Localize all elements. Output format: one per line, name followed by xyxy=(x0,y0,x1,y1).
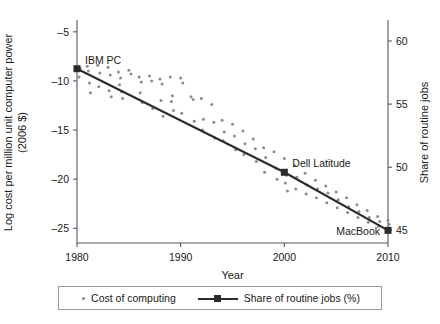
scatter-point xyxy=(326,191,329,194)
scatter-point xyxy=(162,115,165,118)
scatter-point xyxy=(140,80,143,83)
scatter-point xyxy=(254,147,257,150)
scatter-point xyxy=(98,72,101,75)
legend-item-cost-of-computing: Cost of computing xyxy=(80,292,176,304)
legend-label-cost-of-computing: Cost of computing xyxy=(91,292,176,304)
x-tick-label: 1990 xyxy=(169,251,193,263)
scatter-point xyxy=(221,119,224,122)
x-tick-label: 1980 xyxy=(65,251,89,263)
scatter-point xyxy=(138,76,141,79)
scatter-point xyxy=(241,130,244,133)
legend-label-share-of-routine-jobs: Share of routine jobs (%) xyxy=(244,292,360,304)
scatter-point xyxy=(223,131,226,134)
scatter-point xyxy=(324,185,327,188)
legend-dot-icon xyxy=(82,297,85,300)
annotation-label: MacBook xyxy=(336,225,381,237)
scatter-point xyxy=(172,109,175,112)
scatter-point xyxy=(366,209,369,212)
scatter-point xyxy=(346,211,349,214)
scatter-point xyxy=(388,223,391,226)
scatter-point xyxy=(272,150,275,153)
scatter-point xyxy=(109,74,112,77)
scatter-point xyxy=(356,216,359,219)
scatter-point xyxy=(117,71,120,74)
anchor-marker xyxy=(385,227,392,234)
share-of-routine-jobs-line xyxy=(77,69,388,231)
scatter-point xyxy=(171,94,174,97)
scatter-point xyxy=(200,97,203,100)
scatter-point xyxy=(262,146,265,149)
scatter-point xyxy=(212,121,215,124)
y-tick-label-left: –15 xyxy=(51,124,69,136)
scatter-point xyxy=(97,85,100,88)
scatter-point xyxy=(263,171,266,174)
scatter-point xyxy=(181,81,184,84)
anchor-marker xyxy=(281,169,288,176)
y-tick-label-left: –25 xyxy=(51,222,69,234)
scatter-point xyxy=(325,201,328,204)
y-axis-left-title-line1: Log cost per million unit computer power xyxy=(2,33,14,231)
scatter-point xyxy=(304,172,307,175)
scatter-point xyxy=(89,91,92,94)
y-tick-label-right: 45 xyxy=(396,224,408,236)
y-axis-left-title: Log cost per million unit computer power… xyxy=(2,33,28,231)
y-axis-right-title: Share of routine jobs xyxy=(418,81,430,183)
scatter-point xyxy=(284,182,287,185)
annotation-label: IBM PC xyxy=(85,54,122,66)
scatter-point xyxy=(110,95,113,98)
scatter-point xyxy=(148,75,151,78)
y-axis-left-title-line2: (2006 $) xyxy=(16,112,28,153)
scatter-point xyxy=(367,221,370,224)
scatter-point xyxy=(336,206,339,209)
scatter-point xyxy=(150,79,153,82)
legend-line-square-icon xyxy=(198,293,238,303)
scatter-point xyxy=(127,69,130,72)
scatter-point xyxy=(243,142,246,145)
scatter-point xyxy=(283,157,286,160)
scatter-point xyxy=(355,203,358,206)
scatter-point xyxy=(87,70,90,73)
scatter-point xyxy=(315,196,318,199)
y-tick-label-right: 60 xyxy=(396,35,408,47)
scatter-point xyxy=(119,76,122,79)
scatter-point xyxy=(139,91,142,94)
scatter-point xyxy=(170,100,173,103)
scatter-point xyxy=(231,123,234,126)
y-tick-label-right: 50 xyxy=(396,161,408,173)
scatter-point xyxy=(180,112,183,115)
legend-item-share-of-routine-jobs: Share of routine jobs (%) xyxy=(198,292,360,304)
scatter-point xyxy=(159,99,162,102)
scatter-point xyxy=(255,160,258,163)
scatter-point xyxy=(376,215,379,218)
scatter-point xyxy=(305,192,308,195)
scatter-point xyxy=(129,73,132,76)
scatter-point xyxy=(345,196,348,199)
y-tick-label-right: 55 xyxy=(396,98,408,110)
scatter-point xyxy=(286,189,289,192)
y-tick-label-left: –20 xyxy=(51,173,69,185)
scatter-point xyxy=(161,82,164,85)
scatter-point xyxy=(193,120,196,123)
scatter-point xyxy=(294,187,297,190)
anchor-marker xyxy=(74,65,81,72)
annotation-label: Dell Latitude xyxy=(292,157,351,169)
scatter-point xyxy=(314,179,317,182)
scatter-point xyxy=(192,98,195,101)
y-tick-label-left: –10 xyxy=(51,75,69,87)
scatter-point xyxy=(88,81,91,84)
chart-figure: IBM PCDell LatitudeMacBook –5–10–15–20–2… xyxy=(0,0,440,324)
scatter-point xyxy=(202,118,205,121)
x-axis-title: Year xyxy=(221,269,244,281)
scatter-point xyxy=(378,220,381,223)
y-axis-right-title-text: Share of routine jobs xyxy=(418,81,430,183)
scatter-point xyxy=(108,89,111,92)
chart-legend: Cost of computing Share of routine jobs … xyxy=(58,286,382,310)
scatter-point xyxy=(276,178,279,181)
scatter-point xyxy=(169,76,172,79)
scatter-point xyxy=(210,103,213,106)
scatter-point xyxy=(233,134,236,137)
x-tick-label: 2010 xyxy=(376,251,400,263)
scatter-point xyxy=(107,66,110,69)
trend-line-group xyxy=(77,69,388,231)
scatter-point xyxy=(252,137,255,140)
